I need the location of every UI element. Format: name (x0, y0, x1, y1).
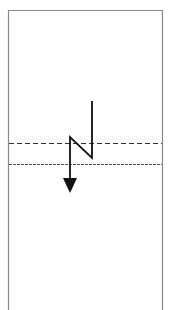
diagram-canvas (0, 0, 169, 310)
arrowhead-down-icon (63, 178, 77, 193)
frame-border (9, 11, 163, 310)
zigzag-arrow-icon (70, 101, 92, 181)
